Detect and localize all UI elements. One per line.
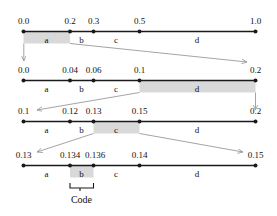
tick-label-row3-2: 0.136 — [85, 150, 106, 160]
tick-label-row2-2: 0.13 — [86, 106, 102, 116]
tick-dot-row0-3 — [138, 30, 142, 34]
tick-label-row0-2: 0.3 — [88, 16, 100, 26]
tick-label-row1-0: 0.0 — [18, 65, 30, 75]
segment-label-row2-d: d — [195, 125, 200, 135]
interval-row-0: 0.0 0.2 0.3 0.5 1.0 a b c d — [18, 16, 262, 45]
segment-label-row1-b: b — [79, 84, 84, 94]
connector-row0-right — [70, 44, 247, 63]
tick-label-row3-0: 0.13 — [16, 150, 32, 160]
tick-label-row0-3: 0.5 — [134, 16, 146, 26]
tick-label-row2-1: 0.12 — [62, 106, 78, 116]
code-brace — [70, 183, 94, 191]
segment-label-row1-c: c — [114, 84, 118, 94]
tick-label-row3-1: 0.134 — [60, 150, 81, 160]
tick-label-row0-0: 0.0 — [18, 16, 30, 26]
tick-dot-row3-0 — [22, 164, 26, 168]
interval-row-3: 0.13 0.134 0.136 0.14 0.15 a b c d — [16, 150, 264, 179]
tick-dot-row0-1 — [68, 30, 72, 34]
tick-dot-row1-3 — [138, 79, 142, 83]
tick-dot-row1-2 — [92, 79, 96, 83]
tick-label-row1-3: 0.1 — [134, 65, 145, 75]
tick-dot-row1-1 — [68, 79, 72, 83]
tick-dot-row2-3 — [138, 120, 142, 124]
tick-label-row1-1: 0.04 — [62, 65, 78, 75]
tick-label-row1-4: 0.2 — [250, 65, 261, 75]
tick-label-row0-4: 1.0 — [250, 16, 262, 26]
tick-dot-row0-2 — [92, 30, 96, 34]
tick-label-row1-2: 0.06 — [86, 65, 102, 75]
tick-label-row2-3: 0.15 — [132, 106, 148, 116]
segment-label-row2-b: b — [79, 125, 84, 135]
interval-row-2: 0.1 0.12 0.13 0.15 0.2 a b c d — [18, 106, 261, 135]
segment-label-row3-b: b — [79, 169, 84, 179]
segment-label-row3-a: a — [45, 169, 49, 179]
tick-dot-row1-4 — [254, 79, 258, 83]
segment-label-row0-c: c — [114, 35, 118, 45]
segment-label-row0-b: b — [79, 35, 84, 45]
tick-dot-row3-3 — [138, 164, 142, 168]
tick-label-row3-4: 0.15 — [248, 150, 264, 160]
segment-label-row2-c: c — [114, 125, 118, 135]
segment-label-row0-a: a — [45, 35, 49, 45]
tick-dot-row0-4 — [254, 30, 258, 34]
tick-dot-row2-4 — [254, 120, 258, 124]
tick-dot-row3-4 — [254, 164, 258, 168]
segment-label-row3-c: c — [114, 169, 118, 179]
tick-dot-row3-1 — [68, 164, 72, 168]
arithmetic-coding-diagram: 0.0 0.2 0.3 0.5 1.0 a b c d 0.0 0.04 0.0… — [0, 0, 277, 216]
code-label: Code — [71, 194, 93, 205]
segment-label-row3-d: d — [195, 169, 200, 179]
tick-dot-row2-2 — [92, 120, 96, 124]
segment-label-row1-a: a — [45, 84, 49, 94]
tick-label-row3-3: 0.14 — [132, 150, 148, 160]
tick-dot-row3-2 — [92, 164, 96, 168]
tick-dot-row1-0 — [22, 79, 26, 83]
tick-dot-row2-0 — [22, 120, 26, 124]
tick-dot-row0-0 — [22, 30, 26, 34]
tick-label-row0-1: 0.2 — [64, 16, 75, 26]
segment-label-row0-d: d — [195, 35, 200, 45]
tick-label-row2-4: 0.2 — [250, 106, 261, 116]
tick-label-row2-0: 0.1 — [18, 106, 29, 116]
connector-row2-right — [140, 134, 244, 153]
tick-dot-row2-1 — [68, 120, 72, 124]
interval-row-1: 0.0 0.04 0.06 0.1 0.2 a b c d — [18, 65, 261, 94]
segment-label-row2-a: a — [45, 125, 49, 135]
segment-label-row1-d: d — [195, 84, 200, 94]
